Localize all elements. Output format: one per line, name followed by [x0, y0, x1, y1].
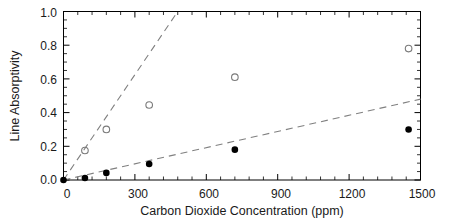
- y-tick-label-5: 1.0: [40, 6, 57, 20]
- series-filled-markers: [60, 126, 412, 183]
- x-tick-label-0: 0: [64, 187, 71, 201]
- axis-ticks: [64, 12, 421, 181]
- series-open-markers: [82, 45, 412, 154]
- data-markers: [60, 45, 412, 183]
- y-tick-label-1: 0.2: [40, 140, 57, 154]
- shallow-dashed-fit: [64, 99, 421, 180]
- data-point-filled: [405, 126, 412, 133]
- y-tick-label-0: 0.0: [40, 173, 57, 187]
- y-tick-label-4: 0.8: [40, 39, 57, 53]
- x-axis-title: Carbon Dioxide Concentration (ppm): [140, 204, 344, 218]
- x-tick-label-1: 300: [128, 187, 148, 201]
- data-point-open: [103, 126, 110, 133]
- y-tick-label-2: 0.4: [40, 106, 57, 120]
- data-point-filled: [60, 177, 67, 184]
- x-tick-label-2: 600: [199, 187, 219, 201]
- y-tick-label-3: 0.6: [40, 73, 57, 87]
- y-axis-title: Line Absorptivity: [8, 50, 22, 142]
- x-tick-label-4: 1200: [339, 187, 366, 201]
- data-point-filled: [82, 175, 89, 182]
- trend-lines: [64, 12, 421, 181]
- data-point-open: [405, 45, 412, 52]
- data-point-open: [146, 102, 153, 109]
- data-point-filled: [146, 161, 153, 168]
- data-point-open: [232, 74, 239, 81]
- data-point-filled: [232, 146, 239, 153]
- data-point-filled: [103, 170, 110, 177]
- steep-dashed-fit: [64, 12, 178, 181]
- scatter-plot: 0 300 600 900 1200 1500 0.0 0.2 0.4 0.6 …: [0, 0, 457, 224]
- chart-figure: 0 300 600 900 1200 1500 0.0 0.2 0.4 0.6 …: [0, 0, 457, 224]
- x-tick-label-5: 1500: [409, 187, 436, 201]
- x-tick-label-3: 900: [271, 187, 291, 201]
- plot-frame: [64, 12, 421, 181]
